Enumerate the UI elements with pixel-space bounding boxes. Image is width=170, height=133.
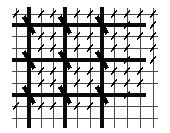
lattice-canvas: [0, 0, 170, 133]
lattice-figure: [0, 0, 170, 133]
